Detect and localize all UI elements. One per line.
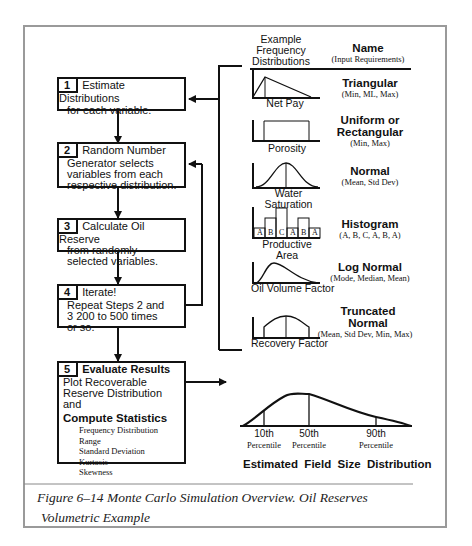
percentile-10: 10th Percentile — [244, 429, 284, 451]
step-title: Evaluate Results — [82, 363, 170, 375]
distribution-name: Histogram (A, B, C, A, B, A) — [325, 218, 415, 241]
bin-label: A — [257, 228, 265, 237]
distribution-title: Uniform or — [341, 114, 400, 126]
name-header-label: Name — [352, 42, 383, 54]
step-number: 1 — [59, 79, 78, 93]
step-body: Plot Recoverable Reserve Distribution an… — [59, 377, 184, 412]
stat-item: Range — [79, 436, 184, 447]
stat-item: Kurtosis — [79, 457, 184, 468]
caption-line-1: Figure 6–14 Monte Carlo Simulation Overv… — [37, 488, 368, 508]
distribution-name: Uniform or Rectangular (Min, Max) — [325, 114, 415, 149]
distribution-inputs: (Min, ML, Max) — [325, 89, 415, 100]
variable-label: Porosity — [262, 143, 312, 154]
distribution-name: Log Normal (Mode, Median, Mean) — [325, 261, 415, 284]
bin-label: B — [268, 228, 276, 237]
percentile-90: 90th Percentile — [356, 429, 396, 451]
result-title: Estimated Field Size Distribution — [243, 458, 432, 470]
distribution-title: Triangular — [342, 77, 398, 89]
field-size-curve — [240, 394, 412, 427]
step-4-box: 4Iterate! Repeat Steps 2 and 3 200 to 50… — [57, 284, 186, 328]
step-body: from randomly selected variables. — [59, 245, 184, 269]
distribution-title: Normal — [350, 165, 390, 177]
step-number: 4 — [59, 286, 78, 300]
bin-label: C — [279, 228, 287, 237]
caption-line-2: Volumetric Example — [37, 508, 368, 528]
name-header: Name (Input Requirements) — [322, 42, 414, 65]
compute-statistics-label: Compute Statistics — [59, 412, 184, 425]
step-3-box: 3Calculate Oil Reserve from randomly sel… — [57, 218, 186, 252]
percentile-label: Percentile — [356, 439, 396, 451]
stat-item: Standard Deviation — [79, 446, 184, 457]
step-number: 2 — [59, 144, 78, 158]
stat-item: Frequency Distribution — [79, 425, 184, 436]
percentile-value: 10th — [254, 428, 273, 439]
distribution-name: Truncated Normal (Mean, Std Dev, Min, Ma… — [318, 305, 418, 340]
header-line: Distributions — [247, 56, 315, 67]
distribution-name: Normal (Mean, Std Dev) — [325, 165, 415, 188]
distribution-inputs: (Min, Max) — [325, 138, 415, 149]
step-body: Repeat Steps 2 and 3 200 to 500 times or… — [59, 300, 171, 335]
distribution-inputs: (Mean, Std Dev) — [325, 177, 415, 188]
figure-caption: Figure 6–14 Monte Carlo Simulation Overv… — [37, 488, 368, 528]
step-body: Generator selects variables from each re… — [59, 158, 184, 193]
variable-label: Net Pay — [260, 98, 310, 109]
distribution-title-2: Normal — [348, 317, 388, 329]
bin-label: B — [301, 228, 309, 237]
variable-label: Productive Area — [251, 239, 323, 261]
distribution-title-2: Rectangular — [337, 126, 403, 138]
distribution-inputs: (Mode, Median, Mean) — [325, 273, 415, 284]
triangular-plot — [253, 68, 320, 98]
step-1-box: 1Estimate Distributions for each variabl… — [57, 77, 186, 111]
bin-label: A — [312, 228, 320, 237]
distribution-inputs: (A, B, C, A, B, A) — [325, 230, 415, 241]
percentile-50: 50th Percentile — [289, 429, 329, 451]
percentile-value: 50th — [299, 428, 318, 439]
bin-label: A — [290, 228, 298, 237]
name-header-sub: (Input Requirements) — [322, 54, 414, 65]
step-body: for each variable. — [59, 104, 184, 118]
step-title: Random Number — [82, 144, 166, 156]
step-title: Iterate! — [82, 286, 116, 298]
variable-label: Oil Volume Factor — [251, 283, 331, 294]
percentile-value: 90th — [366, 428, 385, 439]
distribution-title: Log Normal — [338, 261, 402, 273]
example-distributions-header: Example Frequency Distributions — [247, 34, 315, 67]
distribution-name: Triangular (Min, ML, Max) — [325, 77, 415, 100]
step-2-box: 2Random Number Generator selects variabl… — [57, 142, 186, 188]
stat-item: Skewness — [79, 467, 184, 478]
percentile-label: Percentile — [244, 439, 284, 451]
distribution-title: Truncated — [341, 305, 396, 317]
distribution-inputs: (Mean, Std Dev, Min, Max) — [312, 329, 418, 340]
step-number: 3 — [59, 220, 78, 234]
step-5-box: 5Evaluate Results Plot Recoverable Reser… — [57, 361, 186, 464]
percentile-label: Percentile — [289, 439, 329, 451]
distribution-title: Histogram — [342, 218, 399, 230]
statistics-list: Frequency Distribution Range Standard De… — [59, 425, 184, 482]
variable-label: Water Saturation — [251, 188, 326, 210]
step-number: 5 — [59, 363, 78, 377]
